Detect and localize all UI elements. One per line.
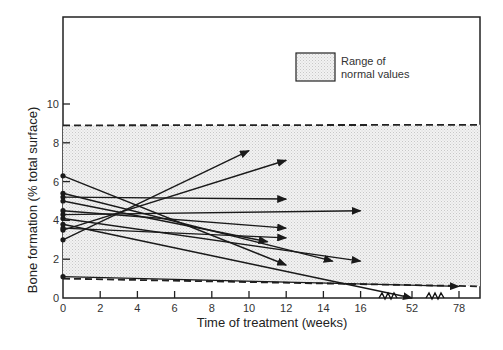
y-tick-label: 8 (53, 137, 59, 149)
x-tick-label: 12 (280, 302, 292, 314)
start-point (60, 191, 65, 196)
x-tick-label: 78 (453, 302, 465, 314)
x-axis-title: Time of treatment (weeks) (197, 315, 348, 330)
legend-label-line1: Range of (341, 55, 387, 67)
y-tick-label: 4 (53, 214, 59, 226)
y-axis-title: Bone formation (% total surface) (25, 107, 40, 293)
y-tick-label: 6 (53, 176, 59, 188)
y-tick-label: 10 (47, 98, 59, 110)
y-tick-label: 0 (53, 292, 59, 304)
x-tick-label: 2 (97, 302, 103, 314)
start-point (60, 274, 65, 279)
normal-range-band (63, 125, 480, 287)
x-tick-label: 4 (134, 302, 140, 314)
start-point (60, 237, 65, 242)
bone-formation-chart: Range of normal values 02468101214165278… (0, 0, 503, 350)
x-tick-label: 16 (354, 302, 366, 314)
legend-label-line2: normal values (341, 68, 410, 80)
x-tick-label: 10 (243, 302, 255, 314)
start-point (60, 198, 65, 203)
start-point (60, 208, 65, 213)
start-point (60, 222, 65, 227)
x-tick-label: 52 (406, 302, 418, 314)
x-tick-label: 14 (317, 302, 329, 314)
x-tick-label: 0 (60, 302, 66, 314)
y-tick-label: 2 (53, 253, 59, 265)
legend-swatch (296, 53, 335, 81)
x-tick-label: 6 (172, 302, 178, 314)
normal-range-fill (63, 125, 480, 287)
x-tick-label: 8 (209, 302, 215, 314)
start-point (60, 173, 65, 178)
